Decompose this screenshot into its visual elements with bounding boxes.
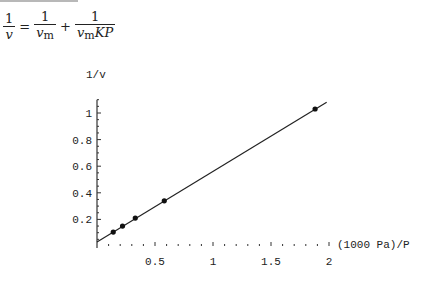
y-axis-label: 1/v bbox=[86, 69, 106, 81]
y-tick-label: 0.2 bbox=[72, 214, 92, 226]
fit-line-path bbox=[97, 102, 327, 242]
x-tick-label: 1 bbox=[210, 256, 217, 268]
data-point bbox=[120, 223, 125, 228]
plot: 0.20.40.60.810.511.52 1/v (1000 Pa)/P bbox=[0, 0, 438, 284]
x-tick-label: 2 bbox=[326, 256, 333, 268]
data-point bbox=[133, 215, 138, 220]
y-tick-label: 1 bbox=[85, 108, 92, 120]
data-point bbox=[312, 106, 317, 111]
y-tick-label: 0.8 bbox=[72, 135, 92, 147]
x-tick-label: 1.5 bbox=[261, 256, 281, 268]
data-point bbox=[162, 198, 167, 203]
x-axis-label: (1000 Pa)/P bbox=[337, 239, 410, 251]
axes: 0.20.40.60.810.511.52 bbox=[72, 100, 333, 268]
data-point bbox=[111, 229, 116, 234]
x-tick-label: 0.5 bbox=[145, 256, 165, 268]
y-tick-label: 0.4 bbox=[72, 188, 92, 200]
y-tick-label: 0.6 bbox=[72, 161, 92, 173]
fit-line bbox=[97, 102, 327, 242]
